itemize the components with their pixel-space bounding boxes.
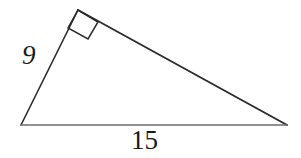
- side-length-label-leg: 9: [22, 42, 36, 69]
- geometry-figure: 9 15: [0, 0, 301, 158]
- triangle-side-hypotenuse: [78, 10, 287, 125]
- right-angle-marker-icon: [68, 10, 98, 39]
- side-length-label-base: 15: [131, 127, 158, 154]
